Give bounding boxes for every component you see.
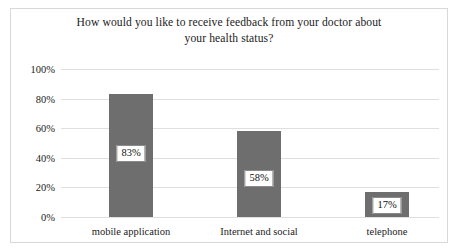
x-axis-label-2: telephone bbox=[367, 226, 408, 237]
y-axis-label-20: 20% bbox=[36, 182, 55, 193]
gridline-0 bbox=[61, 217, 439, 218]
bar-value-label-0: 83% bbox=[116, 145, 145, 162]
y-axis-label-40: 40% bbox=[36, 152, 55, 163]
bar-mobile-application[interactable]: 83% bbox=[109, 94, 153, 217]
chart-title-line-2: your health status? bbox=[11, 31, 447, 47]
y-axis-label-100: 100% bbox=[31, 64, 56, 75]
chart-title-line-1: How would you like to receive feedback f… bbox=[11, 15, 447, 31]
plot-area: 100% 80% 60% 40% 20% 0% 83% mobile appli… bbox=[61, 69, 439, 217]
y-axis-label-80: 80% bbox=[36, 93, 55, 104]
y-axis-label-60: 60% bbox=[36, 123, 55, 134]
x-axis-label-1: Internet and social bbox=[220, 226, 298, 237]
gridline-100 bbox=[61, 69, 439, 70]
bar-telephone[interactable]: 17% bbox=[365, 192, 409, 217]
y-axis-label-0: 0% bbox=[41, 212, 55, 223]
bar-internet-and-social[interactable]: 58% bbox=[237, 131, 281, 217]
bar-value-label-2: 17% bbox=[372, 197, 401, 214]
x-axis-label-0: mobile application bbox=[92, 226, 170, 237]
bar-value-label-1: 58% bbox=[244, 170, 273, 187]
chart-title: How would you like to receive feedback f… bbox=[11, 15, 447, 47]
chart-frame: How would you like to receive feedback f… bbox=[10, 8, 448, 243]
